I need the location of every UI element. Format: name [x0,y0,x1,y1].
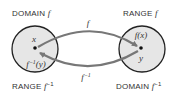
point-x-label: x [31,34,36,44]
range-f-label: RANGE f [123,8,159,18]
range-finv-label: RANGE f−1 [12,81,54,91]
point-y-dot [139,46,143,50]
forward-f-label: f [87,18,91,28]
domain-finv-label: DOMAIN f−1 [116,81,162,91]
function-inverse-diagram: x f−1(y) DOMAIN f RANGE f−1 f(x) y RANGE… [0,0,178,95]
domain-f-set: x f−1(y) DOMAIN f RANGE f−1 [12,8,58,91]
point-x-dot [33,46,37,50]
point-fx-label: f(x) [135,30,148,40]
domain-f-label: DOMAIN f [12,8,52,18]
range-f-set: f(x) y RANGE f DOMAIN f−1 [116,8,165,91]
point-y-label: y [138,53,143,63]
inverse-finv-label: f−1 [81,72,91,82]
